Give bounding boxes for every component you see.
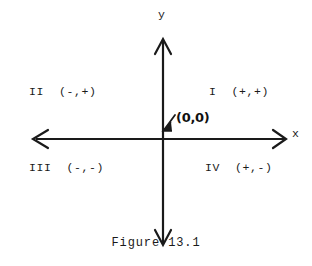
quadrant-1-label: I (+,+) — [209, 85, 269, 98]
y-axis-label: y — [158, 8, 165, 21]
quadrant-2-label: II (-,+) — [29, 85, 97, 98]
coordinate-plane-figure: y x (0,0) II (-,+) I (+,+) III (-,-) IV … — [0, 0, 312, 266]
x-axis-label: x — [292, 127, 299, 140]
figure-caption: Figure 13.1 — [0, 236, 312, 250]
arrow-down-left-icon — [163, 115, 175, 131]
quadrant-4-label: IV (+,-) — [205, 161, 273, 174]
quadrant-3-label: III (-,-) — [29, 161, 104, 174]
axes-drawing — [0, 0, 312, 266]
origin-label: (0,0) — [176, 110, 209, 125]
